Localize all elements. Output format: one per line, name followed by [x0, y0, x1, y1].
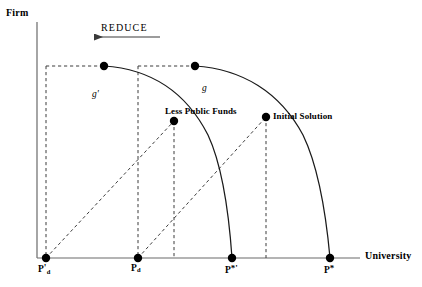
curve-g: [195, 66, 330, 258]
point-initial-solution: [262, 113, 270, 121]
point-less-public-funds: [170, 117, 178, 125]
marked-points-group: [42, 62, 334, 262]
tick-sub: d: [137, 266, 141, 273]
tick-sub: d: [46, 268, 50, 275]
reduce-arrow-label: REDUCE: [101, 23, 148, 33]
y-axis-title: Firm: [6, 8, 28, 18]
figure-root: Firm University REDUCE g' g Less Public …: [0, 0, 422, 287]
point-p-d: [134, 254, 142, 262]
label-initial-solution: Initial Solution: [273, 112, 332, 121]
ray-to-initial-solution: [138, 117, 266, 258]
tick-label-p-star: P*: [324, 264, 334, 276]
tick-label-p-d-prime: P'd: [38, 264, 50, 275]
ray-to-less-public-funds: [46, 121, 174, 258]
axes-group: [37, 22, 360, 258]
x-axis-title: University: [365, 251, 411, 261]
diagram-canvas: [0, 0, 422, 287]
point-p-star-prime: [228, 254, 236, 262]
point-p-d-prime: [42, 254, 50, 262]
tick-base: P: [131, 263, 137, 273]
point-p-star: [326, 254, 334, 262]
curve-g-prime: [104, 66, 232, 258]
curve-label-g: g: [202, 84, 207, 94]
point-g-prime-top: [100, 62, 108, 70]
tick-label-p-d: Pd: [131, 264, 141, 274]
label-less-public-funds: Less Public Funds: [165, 107, 237, 116]
tick-star: *': [231, 263, 238, 273]
dashed-guides-group: [46, 66, 266, 258]
curve-label-g-prime: g': [92, 90, 99, 100]
tick-star: *: [330, 263, 335, 273]
tick-label-p-star-prime: P*': [225, 264, 238, 276]
point-g-top: [191, 62, 199, 70]
